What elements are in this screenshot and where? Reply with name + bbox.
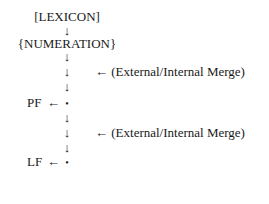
spell-out-node-dot: • — [65, 97, 69, 111]
lexicon-label: [LEXICON] — [34, 10, 100, 24]
left-arrow-icon: ← — [47, 96, 60, 110]
lf-label: LF — [27, 155, 42, 169]
down-arrow-icon: ↓ — [64, 126, 71, 140]
down-arrow-icon: ↓ — [64, 111, 71, 125]
merge-annotation: ← (External/Internal Merge) — [95, 65, 245, 79]
down-arrow-icon: ↓ — [64, 50, 71, 64]
down-arrow-icon: ↓ — [64, 65, 71, 79]
left-arrow-icon: ← — [47, 155, 60, 169]
final-node-dot: • — [65, 156, 69, 170]
down-arrow-icon: ↓ — [64, 141, 71, 155]
pf-label: PF — [27, 96, 41, 110]
down-arrow-icon: ↓ — [64, 80, 71, 94]
merge-annotation: ← (External/Internal Merge) — [95, 126, 245, 140]
